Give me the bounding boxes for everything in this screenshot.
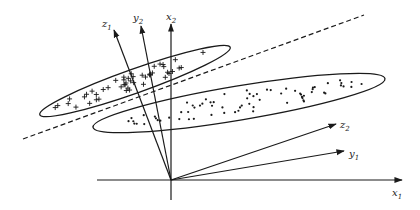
plus-marker (90, 89, 95, 94)
plus-marker (201, 50, 206, 55)
dot-marker (130, 117, 132, 119)
y2-label: y2 (132, 12, 144, 26)
dot-marker (266, 89, 268, 91)
dot-marker (360, 83, 362, 85)
plus-marker (96, 97, 101, 102)
dot-marker (252, 95, 254, 97)
dot-marker (299, 92, 301, 94)
diagram-canvas: x1 y1 z2 x2 y2 z1 (0, 0, 420, 210)
dot-marker (205, 98, 207, 100)
dot-marker (132, 120, 134, 122)
plus-marker (87, 101, 92, 106)
dot-marker (155, 117, 157, 119)
dot-marker (223, 93, 225, 95)
dot-marker (311, 91, 313, 93)
dot-marker (303, 100, 305, 102)
dot-marker (280, 92, 282, 94)
dot-marker (314, 86, 316, 88)
plus-marker (152, 64, 157, 69)
dot-marker (127, 120, 129, 122)
y1-axis (171, 151, 344, 180)
y2-axis (141, 26, 171, 180)
dot-marker (342, 85, 344, 87)
dot-marker (178, 118, 180, 120)
separator-dashed-line (23, 15, 364, 139)
plus-marker (106, 85, 111, 90)
dot-marker (327, 82, 329, 84)
dot-marker (210, 114, 212, 116)
dot-marker (286, 102, 288, 104)
plus-marker (94, 97, 99, 102)
dot-marker (340, 84, 342, 86)
dot-marker (339, 79, 341, 81)
dot-marker (221, 106, 223, 108)
dot-marker (168, 117, 170, 119)
z1-label: z1 (101, 18, 112, 32)
dot-marker (186, 102, 188, 104)
plus-marker (101, 87, 106, 92)
dot-marker (270, 89, 272, 91)
plus-marker (66, 101, 71, 106)
dot-marker (294, 90, 296, 92)
dot-marker (323, 92, 325, 94)
dot-marker (180, 111, 182, 113)
plus-marker (126, 76, 131, 81)
plus-marker (121, 75, 126, 80)
y1-label: y1 (348, 148, 359, 162)
plus-marker (73, 105, 78, 110)
dot-marker (234, 111, 236, 113)
dot-marker (246, 89, 248, 91)
plus-marker (113, 78, 118, 83)
dot-marker (192, 104, 194, 106)
dot-marker (157, 119, 159, 121)
dot-marker (249, 93, 251, 95)
dot-cluster (90, 62, 388, 144)
plus-marker (173, 57, 178, 62)
dot-marker (187, 111, 189, 113)
z2-label: z2 (339, 119, 350, 133)
dot-marker (259, 99, 261, 101)
dot-marker (303, 95, 305, 97)
dot-marker (241, 105, 243, 107)
dot-marker (213, 101, 215, 103)
plus-cluster-ellipse (36, 36, 234, 126)
x2-label: x2 (166, 11, 177, 25)
dot-marker (193, 118, 195, 120)
dot-marker (133, 122, 135, 124)
dot-marker (340, 82, 342, 84)
dot-marker (201, 103, 203, 105)
dot-cluster-ellipse (90, 62, 388, 144)
plus-marker (94, 92, 99, 97)
plus-cluster (36, 36, 234, 126)
plus-marker (158, 62, 163, 67)
plus-marker (163, 75, 168, 80)
dot-marker (199, 104, 201, 106)
dot-marker (248, 103, 250, 105)
x1-label: x1 (392, 187, 402, 201)
dot-marker (252, 110, 254, 112)
z2-axis (171, 124, 336, 180)
dot-marker (239, 106, 241, 108)
dot-marker (301, 97, 303, 99)
dot-marker (237, 110, 239, 112)
dot-marker (246, 97, 248, 99)
dot-marker (211, 105, 213, 107)
dot-marker (188, 118, 190, 120)
dot-marker (256, 93, 258, 95)
dot-marker (223, 112, 225, 114)
dot-marker (285, 88, 287, 90)
plus-marker (141, 82, 146, 87)
dot-marker (209, 101, 211, 103)
dot-marker (136, 123, 138, 125)
dot-marker (252, 106, 254, 108)
dot-marker (193, 106, 195, 108)
dot-marker (143, 114, 145, 116)
dot-marker (350, 86, 352, 88)
plus-marker (67, 96, 72, 101)
z1-axis (114, 30, 171, 180)
dot-marker (350, 81, 352, 83)
dot-marker (143, 123, 145, 125)
